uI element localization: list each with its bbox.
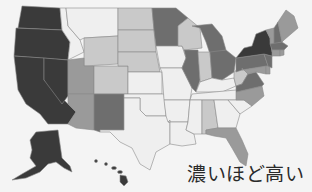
state-ct[interactable] [272, 50, 280, 56]
state-me[interactable] [278, 10, 298, 42]
state-nd[interactable] [118, 8, 154, 30]
state-or[interactable] [14, 28, 70, 60]
state-ks[interactable] [128, 72, 162, 94]
state-in[interactable] [198, 52, 212, 82]
state-ia[interactable] [156, 46, 186, 68]
state-wi[interactable] [178, 18, 202, 50]
state-co[interactable] [94, 66, 128, 94]
state-hi[interactable] [95, 160, 129, 187]
choropleth-map: 濃いほど高い [0, 0, 312, 192]
state-nm[interactable] [94, 94, 124, 132]
legend-caption: 濃いほど高い [187, 159, 304, 186]
state-de[interactable] [266, 66, 270, 74]
state-sd[interactable] [118, 30, 156, 52]
state-ar[interactable] [164, 100, 190, 122]
state-ak[interactable] [12, 130, 72, 180]
state-wy[interactable] [84, 36, 118, 66]
state-oh[interactable] [210, 50, 236, 80]
state-ri[interactable] [280, 50, 284, 56]
state-wa[interactable] [18, 6, 62, 30]
